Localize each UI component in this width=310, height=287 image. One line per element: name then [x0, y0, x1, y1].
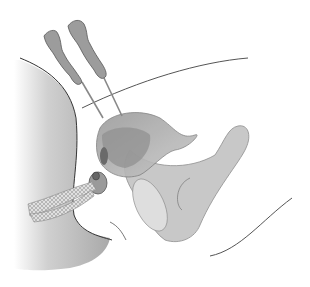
perineal-line: [110, 222, 126, 240]
bladder-dark-spot: [100, 147, 108, 165]
illustration-svg: [0, 0, 310, 287]
body-torso-silhouette: [14, 60, 110, 270]
lower-contour-line: [210, 198, 292, 256]
urethral-lumen: [93, 172, 100, 180]
medical-illustration: [0, 0, 310, 287]
